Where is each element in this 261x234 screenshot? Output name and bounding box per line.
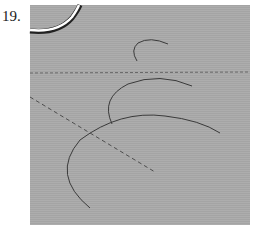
small-arc — [134, 40, 168, 61]
medium-arc — [108, 78, 192, 124]
diagonal-dashed-line — [30, 97, 155, 172]
top-left-highlighted-arc — [30, 5, 80, 31]
horizontal-dashed-line — [30, 72, 250, 73]
figure-drawing — [0, 0, 261, 234]
large-arc — [67, 115, 220, 208]
